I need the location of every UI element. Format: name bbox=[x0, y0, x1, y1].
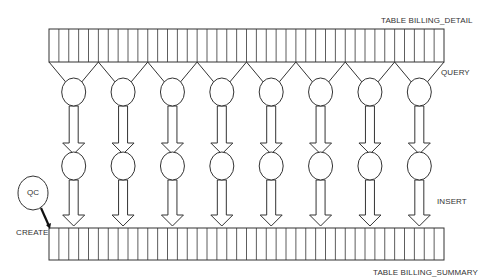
query-process-node bbox=[309, 78, 333, 106]
insert-arrow bbox=[310, 180, 332, 226]
transfer-arrow bbox=[112, 106, 134, 154]
transfer-arrow bbox=[359, 106, 381, 154]
insert-arrow bbox=[260, 180, 282, 226]
query-process-node bbox=[111, 78, 135, 106]
transfer-arrow bbox=[63, 106, 85, 154]
parallel-processes bbox=[62, 78, 432, 226]
query-coordinator bbox=[18, 176, 51, 229]
insert-arrow bbox=[161, 180, 183, 226]
create-connector bbox=[41, 208, 49, 226]
label-insert: INSERT bbox=[437, 197, 467, 206]
label-table-billing-detail: TABLE BILLING_DETAIL bbox=[381, 16, 473, 25]
insert-process-node bbox=[309, 152, 333, 180]
transfer-arrow bbox=[260, 106, 282, 154]
transfer-arrow bbox=[310, 106, 332, 154]
query-process-node bbox=[210, 78, 234, 106]
query-line bbox=[378, 62, 395, 82]
query-line bbox=[148, 62, 165, 82]
insert-arrow bbox=[359, 180, 381, 226]
query-line bbox=[296, 62, 313, 82]
label-create: CREATE bbox=[16, 228, 48, 237]
transfer-arrow bbox=[408, 106, 430, 154]
insert-arrow bbox=[63, 180, 85, 226]
query-line bbox=[82, 62, 99, 82]
insert-process-node bbox=[111, 152, 135, 180]
query-line bbox=[395, 62, 412, 82]
insert-process-node bbox=[160, 152, 184, 180]
query-line bbox=[98, 62, 115, 82]
insert-process-node bbox=[358, 152, 382, 180]
query-process-node bbox=[62, 78, 86, 106]
insert-process-node bbox=[259, 152, 283, 180]
insert-process-node bbox=[407, 152, 431, 180]
transfer-arrow bbox=[161, 106, 183, 154]
insert-process-node bbox=[210, 152, 234, 180]
query-process-node bbox=[358, 78, 382, 106]
query-line bbox=[180, 62, 197, 82]
label-table-billing-summary: TABLE BILLING_SUMMARY bbox=[373, 268, 478, 277]
query-fan-lines bbox=[49, 62, 444, 82]
query-line bbox=[247, 62, 264, 82]
query-process-node bbox=[259, 78, 283, 106]
insert-arrow bbox=[211, 180, 233, 226]
query-line bbox=[279, 62, 296, 82]
query-line bbox=[131, 62, 148, 82]
label-qc: QC bbox=[27, 188, 39, 197]
parallel-insert-diagram bbox=[0, 0, 491, 278]
query-line bbox=[49, 62, 66, 82]
label-query: QUERY bbox=[441, 68, 470, 77]
query-line bbox=[329, 62, 346, 82]
query-line bbox=[230, 62, 247, 82]
transfer-arrow bbox=[211, 106, 233, 154]
insert-arrow bbox=[112, 180, 134, 226]
billing-summary-table bbox=[49, 228, 444, 260]
billing-detail-table bbox=[49, 29, 444, 62]
insert-arrow bbox=[408, 180, 430, 226]
query-process-node bbox=[407, 78, 431, 106]
query-line bbox=[345, 62, 362, 82]
query-line bbox=[197, 62, 214, 82]
insert-process-node bbox=[62, 152, 86, 180]
query-process-node bbox=[160, 78, 184, 106]
